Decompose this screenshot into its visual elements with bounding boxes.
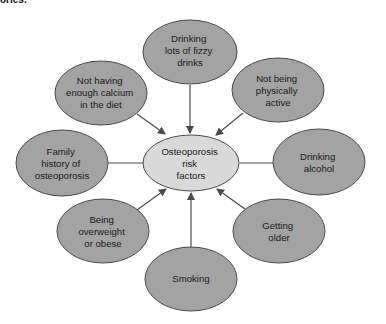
svg-text:Drinking alcohol: Drinking alcohol	[300, 151, 338, 174]
arrow-physically-active	[216, 113, 243, 135]
node-family-history: Family history of osteoporosis	[16, 130, 108, 196]
arrow-overweight	[137, 189, 166, 210]
node-label-line: in the diet	[80, 99, 122, 110]
node-label-line: enough calcium	[66, 87, 133, 98]
node-label-line: Not having	[77, 75, 123, 86]
node-label-line: history of	[41, 158, 80, 169]
arrow-older	[217, 189, 245, 209]
node-label-line: overweight	[78, 226, 125, 237]
node-label-line: physically	[256, 85, 298, 96]
center-label-line: Osteoporosis	[161, 146, 218, 157]
node-overweight: Being overweight or obese	[57, 199, 149, 263]
node-older: Getting older	[233, 199, 325, 263]
node-label-line: Family	[47, 146, 75, 157]
center-label-line: factors	[177, 170, 206, 181]
node-label-line: lots of fizzy	[165, 45, 213, 56]
node-label-line: active	[265, 97, 290, 108]
node-calcium: Not having enough calcium in the diet	[55, 61, 147, 125]
svg-text:Smoking: Smoking	[172, 273, 209, 284]
node-label-line: Smoking	[172, 273, 209, 284]
node-label-line: alcohol	[304, 163, 334, 174]
node-label-line: Drinking	[171, 33, 206, 44]
node-label-line: or obese	[84, 238, 121, 249]
node-fizzy-drinks: Drinking lots of fizzy drinks	[143, 20, 237, 84]
node-label-line: Not being	[256, 73, 297, 84]
node-label-line: osteoporosis	[35, 170, 90, 181]
risk-factor-diagram: Drinking lots of fizzy drinks Not being …	[0, 0, 386, 324]
node-label-line: Getting	[262, 220, 293, 231]
node-label-line: Drinking	[300, 151, 335, 162]
center-node-osteoporosis-risk-factors: Osteoporosis risk factors	[143, 135, 239, 191]
node-label-line: drinks	[177, 57, 203, 68]
center-label-line: risk	[182, 158, 197, 169]
node-alcohol: Drinking alcohol	[273, 129, 365, 195]
node-physically-active: Not being physically active	[232, 58, 324, 122]
node-label-line: Being	[89, 214, 114, 225]
node-label-line: older	[268, 232, 290, 243]
arrow-calcium	[137, 114, 165, 134]
node-smoking: Smoking	[145, 247, 237, 311]
